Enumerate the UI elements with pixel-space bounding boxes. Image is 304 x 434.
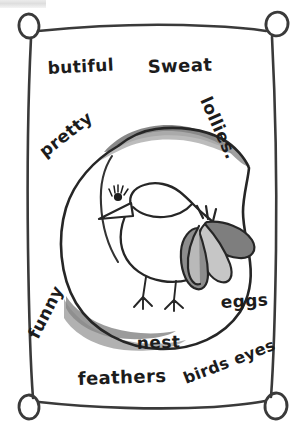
bird-leg-right xyxy=(174,281,176,300)
corner-pin-top-right xyxy=(263,10,290,39)
frame-edge-top xyxy=(38,25,266,31)
bird-legs xyxy=(134,277,183,311)
bird-foot-right xyxy=(165,300,183,311)
bird-beak xyxy=(99,203,133,219)
word-nest: nest xyxy=(136,331,180,353)
word-eggs: eggs xyxy=(220,290,269,312)
frame-edge-bottom xyxy=(39,401,265,408)
corner-pin-bottom-right xyxy=(264,392,289,420)
bird-nest-illustration: butiful Sweat lollies. pretty funny nest… xyxy=(0,0,304,434)
drawing-canvas: butiful Sweat lollies. pretty funny nest… xyxy=(0,0,304,434)
word-butiful: butiful xyxy=(47,55,114,78)
nest-inner-rim xyxy=(101,156,118,262)
corner-pin-bottom-left xyxy=(18,394,40,419)
corner-pin-top-left xyxy=(18,13,40,39)
frame-edge-left xyxy=(28,38,33,398)
word-feathers: feathers xyxy=(77,365,166,389)
bird-eye xyxy=(114,193,122,201)
bird-leg-left xyxy=(143,277,146,297)
word-lollies: lollies. xyxy=(196,93,241,162)
word-pretty: pretty xyxy=(35,107,96,161)
word-sweat: Sweat xyxy=(147,54,212,77)
bird-foot-left xyxy=(134,297,152,309)
